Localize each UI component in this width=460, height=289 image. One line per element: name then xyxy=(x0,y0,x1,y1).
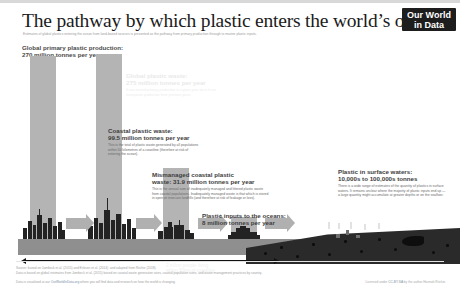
footer-interactive-prefix: Data is visualised at our xyxy=(16,280,51,284)
note-coastal-heading-1: Coastal plastic waste: xyxy=(108,127,200,134)
note-mismanaged-heading-1: Mismanaged coastal plastic xyxy=(152,171,270,178)
person-icon xyxy=(350,222,352,229)
logo-line-1: Our World xyxy=(407,10,451,20)
page-title: The pathway by which plastic enters the … xyxy=(22,10,402,32)
flow-arrow-1 xyxy=(66,218,86,229)
page-subtitle: Estimates of global plastics entering th… xyxy=(23,32,433,36)
person-icon xyxy=(364,224,366,230)
licence-prefix: Licensed under xyxy=(365,280,388,284)
plastic-debris-icon xyxy=(432,251,435,254)
plastic-debris-icon xyxy=(394,248,397,251)
note-coastal-plastic-waste: Coastal plastic waste: 99.5 million tonn… xyxy=(108,127,200,156)
footer-source-line-2: Data is based on global estimates from J… xyxy=(16,271,346,275)
person-icon xyxy=(328,222,330,229)
person-icon xyxy=(378,223,380,229)
footer-divider xyxy=(16,261,444,262)
plastic-debris-icon xyxy=(446,244,449,247)
city-skyline-icon-1 xyxy=(23,212,65,239)
whale-icon xyxy=(402,236,424,246)
note-surface-heading-1: Plastic in surface waters: xyxy=(338,168,446,175)
plastic-debris-icon xyxy=(280,246,283,249)
plastic-debris-icon xyxy=(344,240,347,243)
note-mismanaged-body: This is the annual sum of inadequately m… xyxy=(152,187,270,200)
flow-arrow-2 xyxy=(136,218,154,229)
city-skyline-icon-2 xyxy=(88,200,136,239)
top-rule xyxy=(0,0,460,3)
note-inputs-heading-1: Plastic inputs to the oceans: xyxy=(202,212,310,219)
footer-interactive-suffix: where you will find data and research on… xyxy=(79,280,175,284)
note-mismanaged-heading-2: waste: 31.9 million tonnes per year xyxy=(152,178,270,185)
plastic-fragment-icon xyxy=(356,235,360,238)
plastic-debris-icon xyxy=(264,252,267,255)
footer-interactive-note: Data is visualised at our OurWorldInData… xyxy=(16,280,176,284)
footer-source: Source: based on Jambeck et al. (2015) a… xyxy=(16,266,346,275)
note-global-plastic-waste: Global plastic waste: 275 million tonnes… xyxy=(126,72,222,97)
person-icon xyxy=(338,223,340,229)
footer-licence: Licensed under CC-BY-SA by the author Ha… xyxy=(365,280,446,284)
plastic-debris-icon xyxy=(312,243,315,246)
footer-interactive-link[interactable]: OurWorldInData.org xyxy=(51,280,79,284)
note-waste-body: It can exceed primary production in a gi… xyxy=(126,88,222,96)
logo-line-2: in Data xyxy=(414,20,444,30)
note-waste-heading-2: 275 million tonnes per year xyxy=(126,79,222,86)
plastic-debris-icon xyxy=(360,250,363,253)
plastic-debris-icon xyxy=(296,255,299,258)
plastic-fragment-icon xyxy=(336,234,340,238)
note-surface-body: There is a wide range of estimates of th… xyxy=(338,184,446,197)
plastic-debris-icon xyxy=(378,238,381,241)
plastic-debris-icon xyxy=(328,253,331,256)
coastal-town-icon xyxy=(158,220,194,239)
note-waste-heading-1: Global plastic waste: xyxy=(126,72,222,79)
infographic-root: The pathway by which plastic enters the … xyxy=(0,0,460,289)
licence-link[interactable]: CC-BY-SA xyxy=(388,280,403,284)
note-mismanaged-coastal-waste: Mismanaged coastal plastic waste: 31.9 m… xyxy=(152,171,270,200)
note-surface-waters: Plastic in surface waters: 10,000s to 10… xyxy=(338,168,446,197)
note-coastal-body: This is the total of plastic waste gener… xyxy=(108,143,200,156)
licence-suffix: by the author Hannah Ritchie. xyxy=(403,280,446,284)
plastic-fragment-icon xyxy=(346,230,349,235)
note-surface-heading-2: 10,000s to 100,000s tonnes xyxy=(338,175,446,182)
note-coastal-heading-2: 99.5 million tonnes per year xyxy=(108,134,200,141)
our-world-in-data-logo[interactable]: Our World in Data xyxy=(402,8,456,31)
